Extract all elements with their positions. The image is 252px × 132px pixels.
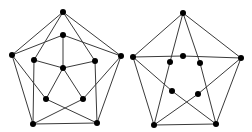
graph-edge	[46, 99, 97, 123]
graph-edge	[63, 61, 95, 68]
graph-node	[169, 88, 175, 94]
right-graph	[130, 10, 244, 128]
graph-edge	[97, 56, 121, 123]
graph-edge	[12, 55, 33, 124]
graph-edge	[34, 60, 63, 68]
graph-node	[180, 10, 186, 16]
graph-node	[167, 59, 173, 65]
graph-node	[180, 53, 186, 59]
graph-node	[80, 96, 86, 102]
graph-node	[94, 120, 100, 126]
graph-node	[92, 58, 98, 64]
graph-edge	[133, 57, 172, 91]
graph-edge	[33, 99, 83, 124]
graph-node	[31, 57, 37, 63]
graph-edge	[63, 35, 121, 56]
graph-node	[30, 121, 36, 127]
graph-node	[43, 96, 49, 102]
graph-edge	[63, 68, 83, 99]
graph-edge	[200, 63, 216, 124]
graph-edge	[183, 56, 241, 58]
graph-edge	[183, 13, 241, 58]
graph-node	[213, 121, 219, 127]
graph-edge	[33, 60, 34, 124]
graph-edge	[154, 124, 216, 125]
graph-node	[60, 32, 66, 38]
graph-node	[197, 60, 203, 66]
graph-diagram-canvas	[0, 0, 252, 132]
graph-edge	[33, 123, 97, 124]
graph-node	[195, 91, 201, 97]
left-graph	[9, 9, 124, 127]
graph-edge	[133, 56, 183, 57]
graph-node	[151, 122, 157, 128]
graph-edge	[95, 61, 97, 123]
graph-node	[60, 65, 66, 71]
graph-edge	[133, 57, 154, 125]
graph-node	[9, 52, 15, 58]
graph-node	[118, 53, 124, 59]
graph-diagram	[0, 0, 252, 132]
graph-node	[238, 55, 244, 61]
graph-node	[130, 54, 136, 60]
graph-edge	[133, 13, 183, 57]
graph-edge	[12, 35, 63, 55]
graph-edge	[12, 12, 63, 55]
graph-edge	[63, 12, 121, 56]
graph-node	[60, 9, 66, 15]
graph-edge	[34, 12, 63, 60]
graph-edge	[46, 68, 63, 99]
